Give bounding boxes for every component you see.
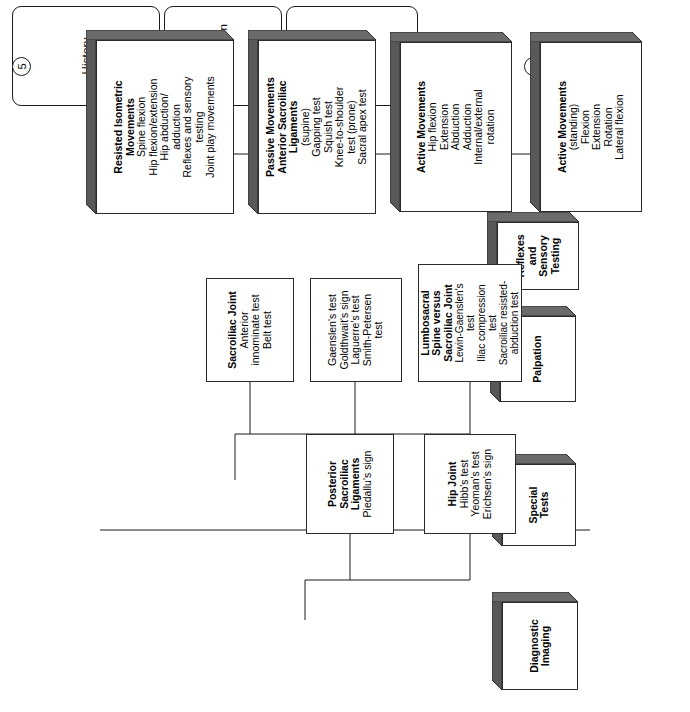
rotated-layout: History Observation Physical Examination… [0,0,690,712]
box-item: Iliac compression [476,284,487,361]
box-title-line: Palpation [532,335,544,382]
box-face: Active Movements (standing) Flexion Exte… [540,42,642,212]
box-item: Extension [591,104,603,150]
box-face: Resisted Isometric Movements Spine flexi… [96,40,234,214]
box-title-line: Posterior [327,461,339,507]
box-item: Sacral apex test [357,89,369,164]
box-item: Belt test [262,311,274,349]
box-top-shade [530,32,540,212]
box-title-line: Hip Joint [447,462,459,507]
box-title-line: Imaging [540,626,552,666]
box-top-shade [390,32,400,212]
step-number-5: 5 [12,57,31,76]
box-title-line: Sacroiliac Joint [443,284,455,362]
box-side-shade [248,30,376,40]
box-title-line: Testing [550,238,562,275]
box-item: Piedallu's sign [362,451,374,518]
box-sacroiliac-joint: Sacroiliac Joint Anterior innominate tes… [206,278,294,382]
box-item: (standing) [568,104,580,151]
diagram-canvas: History Observation Physical Examination… [0,0,690,712]
box-face: Diagnostic Imaging [502,602,578,690]
box-posterior-sacroiliac-ligaments: Posterior Sacroiliac Ligaments Piedallu'… [306,434,394,534]
box-active-movements-standing: Active Movements (standing) Flexion Exte… [530,32,642,212]
box-item: Joint play movements [205,76,217,178]
box-side-shade [487,212,579,222]
box-item: test [465,315,476,331]
box-active-movements-hip: Active Movements Hip flexion Extension A… [390,32,512,212]
box-title-line: Sensory [538,235,550,276]
box-item: Lateral flexion [614,94,626,159]
box-top-shade [86,30,96,214]
box-side-shade [390,32,512,42]
box-item: test [373,322,385,339]
box-item: Erichsen's sign [482,449,494,519]
box-item: test [487,315,498,331]
box-side-shade [530,32,642,42]
box-top-shade [248,30,258,214]
box-top-shade [492,592,502,690]
box-lumbosacral-spine-versus-sacroiliac-joint: Lumbosacral Spine versus Sacroiliac Join… [418,264,522,382]
box-diagnostic-imaging: Diagnostic Imaging [492,592,578,690]
box-passive-movements-anterior-sacroiliac-ligaments: Passive Movements Anterior Sacroiliac Li… [248,30,376,214]
box-resisted-isometric-movements: Resisted Isometric Movements Spine flexi… [86,30,234,214]
box-face: Passive Movements Anterior Sacroiliac Li… [258,40,376,214]
box-side-shade [492,592,578,602]
box-item: innominate test [250,294,262,365]
box-item: rotation [485,109,497,144]
box-item: Lewin-Gaenslen's [454,283,465,362]
box-item: abduction test [509,292,520,354]
box-item: Yeoman's test [470,451,482,516]
box-title-line: Ligaments [350,458,362,511]
box-title-line: Sacroiliac Joint [227,291,239,369]
box-sacroiliac-joint-tests-2: Gaenslen's test Goldthwait's sign Laguer… [310,278,402,382]
step-number-label: 5 [16,63,28,69]
box-hip-joint: Hip Joint Hibb's test Yeoman's test Eric… [424,434,516,534]
box-face: Active Movements Hip flexion Extension A… [400,42,512,212]
box-side-shade [86,30,234,40]
box-item: Sacroiliac resisted- [498,281,509,365]
box-title-line: Tests [539,492,551,519]
